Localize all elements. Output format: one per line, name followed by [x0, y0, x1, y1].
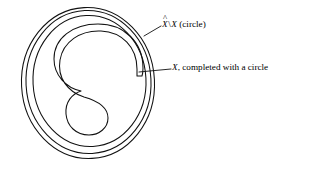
- leader-line-x-completed: [139, 69, 171, 72]
- label-x-completed-suffix: , completed with a circle: [178, 62, 269, 72]
- label-xhat-suffix: (circle): [177, 19, 206, 29]
- figure-root: ^X\X (circle) X, completed with a circle: [0, 0, 317, 171]
- diagram-canvas: [0, 0, 317, 171]
- inner-s-curve: [54, 24, 143, 135]
- leader-line-xhat-minus-x: [144, 26, 161, 36]
- outer-circle-inner: [30, 13, 150, 150]
- label-x-completed: X, completed with a circle: [172, 63, 268, 72]
- x-hat-symbol: ^X: [162, 20, 168, 29]
- label-xhat-minus-x: ^X\X (circle): [162, 20, 206, 29]
- circumflex-accent-icon: ^: [163, 14, 167, 23]
- outer-circle-outermost: [18, 4, 159, 162]
